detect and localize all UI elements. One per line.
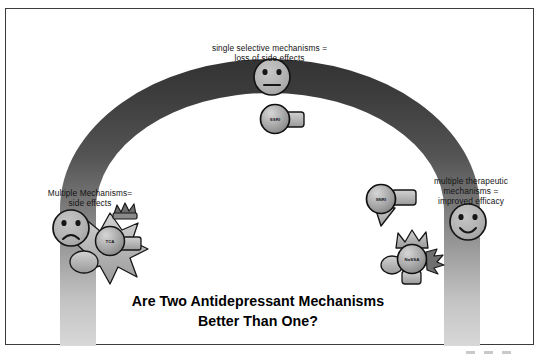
drug-icon-nassa: NaSSA — [381, 230, 444, 284]
face-neutral — [254, 59, 290, 95]
face-sad — [53, 210, 89, 246]
drug-label-ssri: SSRI — [270, 117, 280, 122]
drug-icon-ssri: SSRI — [261, 105, 305, 134]
multiple-therapeutic-mechanisms-label: multiple therapeutic mechanisms = improv… — [404, 176, 538, 206]
slide-title: Are Two Antidepressant Mechanisms Better… — [63, 291, 453, 331]
drug-label-tca: TCA — [105, 239, 114, 244]
single-selective-mechanisms-label: single selective mechanisms = loss of si… — [177, 43, 362, 63]
bottom-edge-artifact — [466, 351, 512, 356]
slide-frame: TCA SSRI SNRI — [5, 8, 534, 345]
slide-canvas: TCA SSRI SNRI — [0, 0, 543, 361]
diagram-stage: TCA SSRI SNRI — [6, 9, 533, 344]
drug-label-nassa: NaSSA — [405, 257, 420, 262]
face-happy — [450, 204, 486, 240]
multiple-mechanisms-side-effects-label: Multiple Mechanisms= side effects — [28, 188, 152, 208]
drug-label-snri: SNRI — [376, 197, 387, 202]
